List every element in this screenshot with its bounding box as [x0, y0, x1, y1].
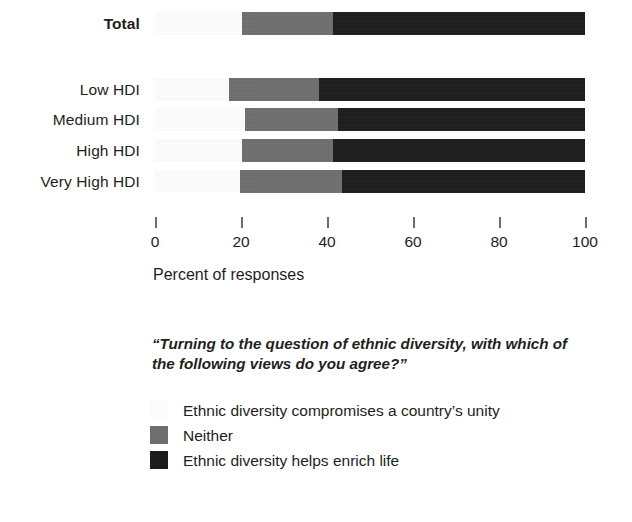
- category-label-low-hdi: Low HDI: [0, 78, 140, 101]
- bar-segment-enrich-life: [333, 12, 585, 35]
- bar-track-total: [155, 12, 585, 35]
- x-axis-tick: [327, 217, 329, 228]
- bar-track-high-hdi: [155, 139, 585, 162]
- bar-row-total: Total: [0, 12, 632, 35]
- bar-track-low-hdi: [155, 78, 585, 101]
- legend: Ethnic diversity compromises a country’s…: [150, 398, 590, 473]
- legend-label: Ethnic diversity compromises a country’s…: [183, 398, 500, 423]
- plot-area: Total Low HDI Medium HDI: [0, 0, 632, 215]
- bar-segment-enrich-life: [338, 108, 585, 131]
- light-swatch-icon: [150, 401, 168, 419]
- dark-swatch-icon: [150, 451, 168, 469]
- bar-segment-neither: [229, 78, 319, 101]
- x-axis-tick-label: 40: [318, 232, 335, 251]
- x-axis-tick-label: 60: [404, 232, 421, 251]
- bar-track-medium-hdi: [155, 108, 585, 131]
- category-label-very-high-hdi: Very High HDI: [0, 170, 140, 193]
- bar-segment-compromises-unity: [155, 108, 245, 131]
- bar-segment-neither: [242, 139, 333, 162]
- category-label-high-hdi: High HDI: [0, 139, 140, 162]
- legend-item-compromises-unity: Ethnic diversity compromises a country’s…: [150, 398, 590, 423]
- x-axis-tick: [585, 217, 587, 228]
- x-axis-title: Percent of responses: [153, 266, 304, 284]
- x-axis-tick-label: 80: [490, 232, 507, 251]
- legend-label: Neither: [183, 423, 233, 448]
- bar-segment-enrich-life: [319, 78, 585, 101]
- gray-swatch-icon: [150, 426, 168, 444]
- bar-segment-compromises-unity: [155, 78, 229, 101]
- x-axis-tick: [499, 217, 501, 228]
- legend-item-neither: Neither: [150, 423, 590, 448]
- x-axis-tick: [241, 217, 243, 228]
- bar-segment-compromises-unity: [155, 170, 240, 193]
- bar-row-low-hdi: Low HDI: [0, 78, 632, 101]
- bar-segment-neither: [242, 12, 333, 35]
- x-axis: 0 20 40 60 80 100: [155, 217, 585, 267]
- stacked-bar-chart-figure: Total Low HDI Medium HDI: [0, 0, 632, 522]
- category-label-medium-hdi: Medium HDI: [0, 108, 140, 131]
- x-axis-tick: [413, 217, 415, 228]
- x-axis-tick-label: 20: [232, 232, 249, 251]
- bar-track-very-high-hdi: [155, 170, 585, 193]
- bar-segment-neither: [240, 170, 342, 193]
- legend-label: Ethnic diversity helps enrich life: [183, 448, 399, 473]
- bar-row-medium-hdi: Medium HDI: [0, 108, 632, 131]
- x-axis-tick-label: 100: [572, 232, 598, 251]
- bar-segment-enrich-life: [342, 170, 585, 193]
- bar-segment-compromises-unity: [155, 139, 242, 162]
- bar-row-very-high-hdi: Very High HDI: [0, 170, 632, 193]
- bar-segment-neither: [245, 108, 338, 131]
- category-label-total: Total: [0, 12, 140, 35]
- legend-item-enrich-life: Ethnic diversity helps enrich life: [150, 448, 590, 473]
- x-axis-tick: [155, 217, 157, 228]
- bar-segment-compromises-unity: [155, 12, 242, 35]
- bar-row-high-hdi: High HDI: [0, 139, 632, 162]
- bar-segment-enrich-life: [333, 139, 585, 162]
- survey-question-text: “Turning to the question of ethnic diver…: [152, 334, 584, 374]
- x-axis-tick-label: 0: [151, 232, 160, 251]
